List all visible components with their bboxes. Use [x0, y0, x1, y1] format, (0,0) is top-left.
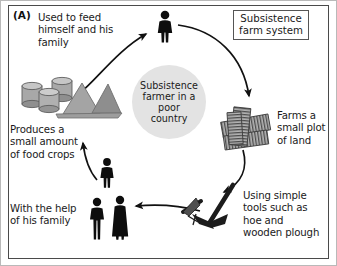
label-farms-small-plot: Farms a small plot of land [277, 110, 335, 147]
title-box: Subsistence farm system [233, 10, 309, 40]
label-with-help-of-family: With the help of his family [10, 203, 94, 228]
label-using-simple-tools: Using simple tools such as hoe and woode… [243, 190, 337, 240]
label-produces-food-crops: Produces a small amount of food crops [10, 124, 106, 161]
panel-letter: (A) [13, 9, 31, 21]
family-woman-figure-icon [112, 196, 128, 240]
center-node-subsistence-farmer: Subsistence farmer in a poor country [132, 65, 206, 139]
title-box-label: Subsistence farm system [239, 13, 303, 37]
farmer-figure-icon [158, 11, 172, 43]
label-used-to-feed: Used to feed himself and his family [38, 12, 138, 49]
subsistence-farm-system-figure: (A) Subsistence farm system Subsistence … [0, 0, 337, 266]
family-child-figure-icon [100, 158, 113, 188]
grain-barrels-and-piles-icon [22, 77, 122, 118]
farm-plots-icon [221, 107, 271, 150]
center-node-label: Subsistence farmer in a poor country [140, 80, 198, 125]
